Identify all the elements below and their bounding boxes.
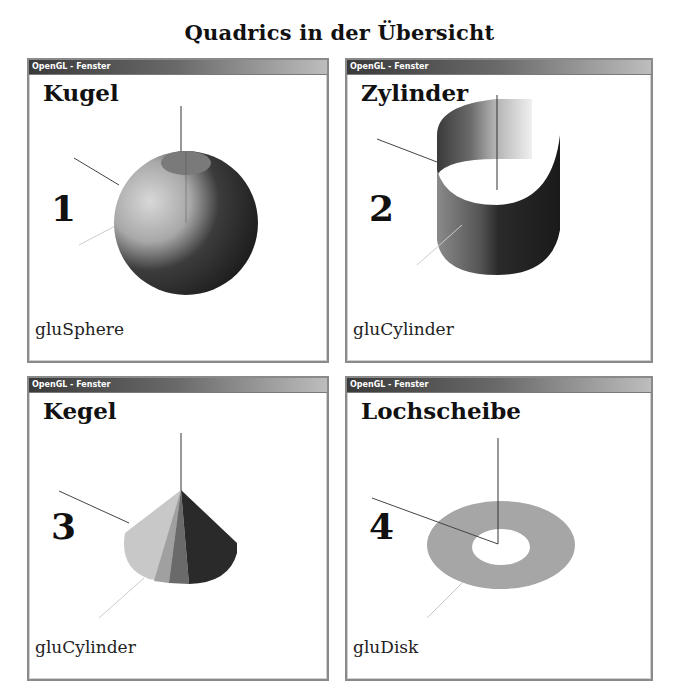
window-titlebar[interactable]: OpenGL - Fenster [29, 378, 327, 393]
opengl-window-sphere[interactable]: OpenGL - Fenster Kugel 1 gluSphere [27, 58, 329, 363]
opengl-window-cone[interactable]: OpenGL - Fenster Kegel 3 gluCylinder [27, 376, 329, 681]
shape-heading: Zylinder [361, 79, 468, 106]
gl-canvas: Kugel 1 gluSphere [29, 75, 327, 361]
opengl-window-cylinder[interactable]: OpenGL - Fenster [345, 58, 653, 363]
function-label: gluSphere [35, 319, 124, 339]
shape-number: 3 [51, 505, 76, 547]
shape-number: 1 [51, 187, 76, 229]
function-label: gluCylinder [353, 319, 454, 339]
window-titlebar[interactable]: OpenGL - Fenster [29, 60, 327, 75]
window-titlebar[interactable]: OpenGL - Fenster [347, 378, 651, 393]
shape-heading: Lochscheibe [361, 397, 521, 424]
gl-canvas: Kegel 3 gluCylinder [29, 393, 327, 679]
shape-heading: Kegel [43, 397, 117, 424]
gl-canvas: Zylinder 2 gluCylinder [347, 75, 651, 361]
shape-heading: Kugel [43, 79, 119, 106]
gl-canvas: Lochscheibe 4 gluDisk [347, 393, 651, 679]
function-label: gluDisk [353, 637, 418, 657]
function-label: gluCylinder [35, 637, 136, 657]
page-title: Quadrics in der Übersicht [0, 20, 679, 45]
opengl-window-disk[interactable]: OpenGL - Fenster Lochscheibe 4 gluDisk [345, 376, 653, 681]
shape-number: 4 [369, 505, 394, 547]
shape-number: 2 [369, 187, 394, 229]
window-titlebar[interactable]: OpenGL - Fenster [347, 60, 651, 75]
